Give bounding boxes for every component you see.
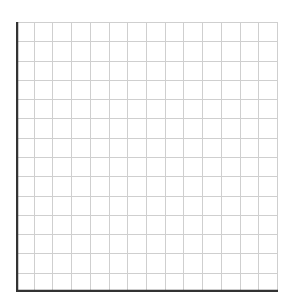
gridlines bbox=[16, 22, 278, 292]
grid-canvas bbox=[16, 22, 278, 292]
empty-grid-chart bbox=[16, 22, 278, 292]
